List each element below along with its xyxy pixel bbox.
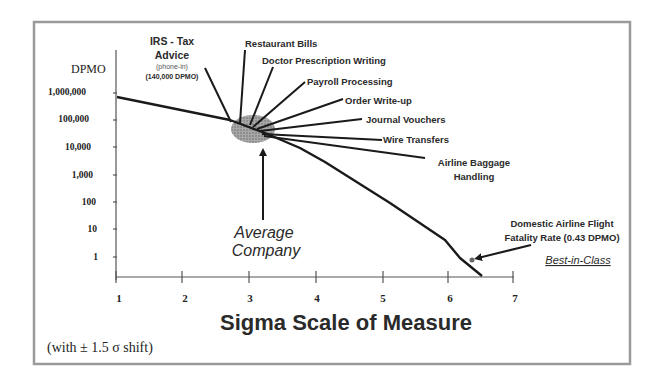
- label-fatality-line2: Fatality Rate (0.43 DPMO): [504, 232, 619, 243]
- label-fatality-line1: Domestic Airline Flight: [510, 218, 614, 229]
- x-tick-label: 7: [512, 292, 518, 304]
- x-tick-label: 1: [116, 292, 122, 304]
- label-irs-phone: (phone-in): [156, 63, 188, 71]
- footnote: (with ± 1.5 σ shift): [47, 340, 153, 356]
- y-tick-label: 1,000: [72, 170, 94, 180]
- label-average-line1: Average: [233, 224, 293, 241]
- label-restaurant: Restaurant Bills: [245, 38, 317, 49]
- y-tick-label: 100,000: [58, 114, 89, 124]
- x-tick-label: 3: [247, 292, 253, 304]
- label-irs-line2: Advice: [155, 49, 190, 61]
- label-payroll: Payroll Processing: [307, 76, 393, 87]
- y-tick-label: 1,000,000: [48, 87, 86, 97]
- y-tick-label: 10,000: [65, 142, 91, 152]
- label-journal: Journal Vouchers: [366, 114, 446, 125]
- label-irs-line1: IRS - Tax: [150, 35, 194, 47]
- y-tick-label: 1: [93, 252, 98, 262]
- label-airline-baggage-line1: Airline Baggage: [438, 157, 510, 168]
- x-axis-title: Sigma Scale of Measure: [220, 310, 472, 335]
- fatality-point: [470, 258, 475, 263]
- sigma-chart: DPMO 1,000,000 100,000 10,000 1,000 100 …: [0, 0, 666, 387]
- label-best-in-class: Best-in-Class: [545, 254, 611, 266]
- x-tick-label: 5: [380, 292, 386, 304]
- y-tick-label: 100: [82, 197, 97, 207]
- label-average-line2: Company: [232, 242, 301, 259]
- y-tick-label: 10: [88, 224, 98, 234]
- label-airline-baggage-line2: Handling: [454, 171, 495, 182]
- label-order: Order Write-up: [345, 95, 412, 106]
- x-tick-label: 2: [182, 292, 188, 304]
- y-axis-title: DPMO: [71, 62, 106, 76]
- label-wire: Wire Transfers: [383, 134, 449, 145]
- label-irs-dpmo: (140,000 DPMO): [146, 73, 199, 81]
- label-doctor: Doctor Prescription Writing: [262, 55, 386, 66]
- x-tick-label: 6: [447, 292, 453, 304]
- x-tick-label: 4: [314, 292, 320, 304]
